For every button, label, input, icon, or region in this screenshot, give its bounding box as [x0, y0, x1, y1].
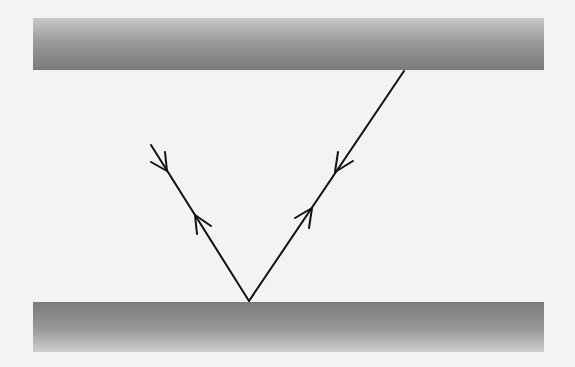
ray-diagram: [0, 0, 575, 367]
arrow-up-left-icon: [195, 215, 211, 234]
left-ray: [151, 145, 249, 301]
right-ray: [249, 71, 404, 301]
